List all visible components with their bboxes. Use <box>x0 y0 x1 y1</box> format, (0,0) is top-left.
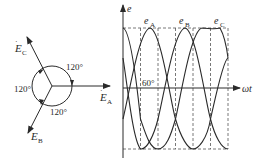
vector-ec <box>27 37 52 86</box>
svg-text:ωt: ωt <box>242 83 252 94</box>
label-eb-curve: e B <box>179 15 190 29</box>
angle-label-ac: 120° <box>66 62 84 72</box>
angle-label-bc: 120° <box>14 84 32 94</box>
waveform-plot: e ωt e A e B e C 60° <box>123 3 252 158</box>
svg-text:A: A <box>107 98 112 106</box>
svg-text:A: A <box>150 21 155 29</box>
three-phase-diagram: E A · E C · E B · 120° 120° 120° <box>0 0 270 168</box>
svg-text:e: e <box>179 15 184 26</box>
svg-text:C: C <box>22 49 27 57</box>
arc-arrowhead-icon <box>70 80 74 86</box>
angle-label-ab: 120° <box>50 107 68 117</box>
phase-angle-label: 60° <box>142 78 155 88</box>
y-axis-label: e <box>127 3 132 14</box>
label-eb: E B · <box>30 125 43 145</box>
label-ea-curve: e A <box>144 15 155 29</box>
label-ea: E A · <box>99 86 112 106</box>
phasor-diagram: E A · E C · E B · 120° 120° 120° <box>14 37 112 145</box>
label-ec-curve: e C <box>214 15 225 29</box>
svg-text:e: e <box>144 15 149 26</box>
svg-text:·: · <box>31 125 34 134</box>
svg-text:B: B <box>185 21 190 29</box>
svg-text:·: · <box>15 37 18 46</box>
svg-text:e: e <box>214 15 219 26</box>
label-ec: E C · <box>14 37 27 57</box>
svg-text:B: B <box>38 137 43 145</box>
svg-text:·: · <box>100 86 103 95</box>
svg-text:C: C <box>220 21 225 29</box>
x-axis-label: ωt <box>242 83 252 94</box>
